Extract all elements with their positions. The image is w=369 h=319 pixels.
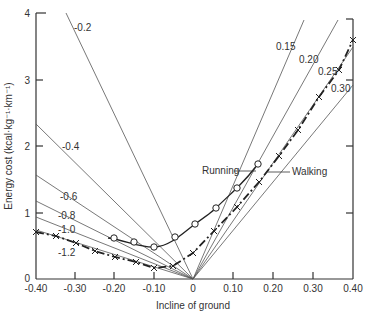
y-tick-4: 4: [24, 8, 30, 19]
x-tick: 0.10: [223, 283, 243, 294]
iso-label: -0.2: [74, 22, 92, 33]
iso-label: -0.8: [58, 210, 76, 221]
iso-label: -1.2: [58, 247, 76, 258]
axes: [36, 13, 353, 279]
x-tick: -0.30: [64, 283, 87, 294]
x-tick-labels: -0.40 -0.30 -0.20 -0.10 0 0.10 0.20 0.30…: [25, 283, 364, 294]
iso-label: -1.0: [58, 224, 76, 235]
y-tick-1: 1: [24, 208, 30, 219]
x-tick: 0: [190, 283, 196, 294]
iso-label: 0.25: [318, 66, 338, 77]
y-axis-title: Energy cost (kcal·kg⁻¹·km⁻¹): [3, 82, 14, 209]
energy-cost-chart: 4 3 2 1 0 -0.40 -0.30 -0.20 -0.10 0 0.10…: [0, 0, 369, 319]
iso-lines: [36, 13, 353, 279]
x-tick: 0.30: [303, 283, 323, 294]
y-tick-3: 3: [24, 75, 30, 86]
iso-line-labels: -0.2 -0.4 -0.6 -0.8 -1.0 -1.2 0.15 0.20 …: [58, 22, 351, 258]
iso-label: 0.15: [276, 41, 296, 52]
y-tick-labels: 4 3 2 1 0: [24, 8, 30, 284]
iso-label: 0.30: [331, 83, 351, 94]
iso-label: 0.20: [299, 54, 319, 65]
x-tick: 0.20: [263, 283, 283, 294]
x-axis-title: Incline of ground: [156, 300, 230, 311]
iso-label: -0.6: [60, 191, 78, 202]
x-tick: -0.40: [25, 283, 48, 294]
walking-series: [33, 37, 356, 271]
walking-markers: [33, 37, 356, 271]
walking-label: Walking: [292, 166, 327, 177]
x-tick: -0.20: [103, 283, 126, 294]
y-tick-2: 2: [24, 141, 30, 152]
iso-label: -0.4: [62, 141, 80, 152]
x-tick: 0.40: [343, 283, 363, 294]
x-tick: -0.10: [143, 283, 166, 294]
running-label: Running: [202, 165, 239, 176]
